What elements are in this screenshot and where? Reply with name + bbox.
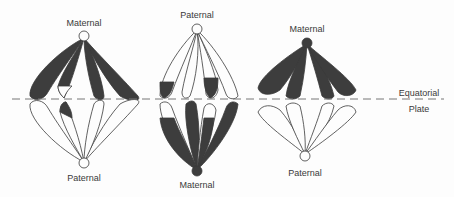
right-top-pole-label: Maternal [289,24,324,34]
left-bottom-pole-icon [79,158,89,168]
diagram-graphic [0,0,454,197]
middle-bottom-pole-label: Maternal [179,180,214,190]
middle-bottom-pole-icon [192,166,202,176]
left-top-pole-icon [79,31,89,41]
middle-top-pole-icon [192,24,202,34]
equatorial-label: Equatorial [399,88,440,98]
middle-top-pole-label: Paternal [180,10,214,20]
plate-label: Plate [409,104,430,114]
right-top-pole-icon [302,38,312,48]
meiosis-spindle-diagram: Maternal Paternal Paternal Maternal Mate… [0,0,454,197]
left-bottom-pole-label: Paternal [67,173,101,183]
left-top-pole-label: Maternal [66,18,101,28]
right-bottom-pole-icon [300,151,310,161]
right-bottom-pole-label: Paternal [288,168,322,178]
middle-spindle [160,24,238,176]
